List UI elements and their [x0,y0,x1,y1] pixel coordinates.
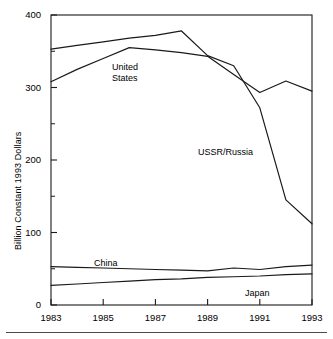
series-label-china: China [94,258,118,269]
series-line-ussr-russia [51,31,312,224]
axis-frame [51,15,312,305]
chart-figure: Billion Constant 1993 Dollars 4003002001… [0,0,333,339]
footer-divider [6,332,327,333]
series-label-united-states-line1: United [112,62,138,73]
y-tick-label-0: 0 [0,299,41,310]
series-line-united-states [51,48,312,93]
chart-plot-area [0,0,333,339]
y-tick-label-400: 400 [0,9,41,20]
y-tick-label-200: 200 [0,154,41,165]
series-lines [51,31,312,285]
x-tick-label-1989: 1989 [192,312,224,323]
series-label-ussr-russia: USSR/Russia [198,147,253,158]
series-label-united-states: United States [112,62,138,83]
x-tick-label-1985: 1985 [87,312,119,323]
series-label-japan: Japan [245,288,270,299]
x-tick-label-1993: 1993 [296,312,328,323]
tick-marks [51,15,312,305]
x-tick-label-1991: 1991 [244,312,276,323]
series-label-united-states-line2: States [112,73,138,84]
x-tick-label-1983: 1983 [35,312,67,323]
series-line-china [51,265,312,271]
y-tick-label-300: 300 [0,82,41,93]
y-tick-label-100: 100 [0,227,41,238]
x-tick-label-1987: 1987 [139,312,171,323]
series-line-japan [51,274,312,286]
